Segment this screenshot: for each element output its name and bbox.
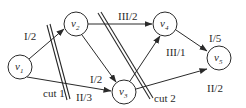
node-v1: v1: [8, 55, 32, 79]
node-v3: v3: [112, 80, 136, 104]
edge-label-v3-v4: III/1: [166, 46, 186, 58]
edge-v3-v5: [136, 69, 207, 89]
node-v4: v4: [153, 12, 177, 36]
cut-1-label: cut 1: [43, 87, 65, 99]
edge-label-v2-v4: III/2: [118, 10, 138, 22]
cut-2-label: cut 2: [154, 92, 176, 104]
node-v5: v5: [207, 46, 231, 70]
edge-label-v1-v2: I/2: [24, 30, 36, 42]
edge-label-v2-v3: I/2: [90, 73, 102, 85]
edge-label-v4-v5: I/5: [209, 32, 222, 44]
edge-label-v1-v3: II/3: [76, 91, 92, 103]
flow-network-diagram: v1 v2 v3 v4 v5 I/2 II/3 I/2 III/2 III/1 …: [0, 0, 246, 108]
node-v2: v2: [64, 12, 88, 36]
edge-label-v3-v5: II/2: [207, 82, 223, 94]
